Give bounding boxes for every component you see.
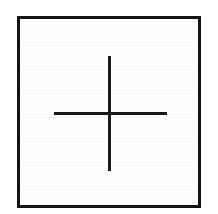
frame-edge-top bbox=[17, 16, 201, 19]
cross-horizontal-stroke bbox=[54, 112, 167, 115]
figure-canvas bbox=[0, 0, 218, 214]
frame-edge-right bbox=[198, 16, 201, 208]
frame-edge-bottom bbox=[17, 205, 201, 208]
frame-edge-left bbox=[17, 16, 20, 208]
